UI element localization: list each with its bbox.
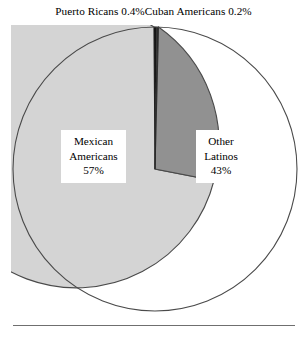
slice-label-other-latinos: Other Latinos 43% [196,130,246,183]
annotation-puerto-ricans: Puerto Ricans 0.4% [55,5,144,17]
pie-svg [11,25,299,313]
slice-label-other-latinos-value: 43% [202,163,240,178]
slice-label-mexican-americans-line1: Mexican [67,134,120,149]
slice-label-other-latinos-line2: Latinos [202,149,240,164]
figure-divider-rule [13,325,295,326]
pie-graphic [11,25,299,313]
pie-chart-figure: Puerto Ricans 0.4%Cuban Americans 0.2% M… [0,0,307,338]
slice-label-other-latinos-line1: Other [202,134,240,149]
slice-label-mexican-americans-line2: Americans [67,149,120,164]
annotation-cuban-americans: Cuban Americans 0.2% [145,5,252,17]
slice-label-mexican-americans-value: 57% [67,163,120,178]
slice-label-mexican-americans: Mexican Americans 57% [61,130,126,183]
slice-annotations: Puerto Ricans 0.4%Cuban Americans 0.2% [0,4,307,18]
